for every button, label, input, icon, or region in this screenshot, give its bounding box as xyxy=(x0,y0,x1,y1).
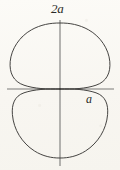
curve-plot-svg xyxy=(0,0,120,170)
label-two-a: 2a xyxy=(51,2,64,15)
figure-container: 2a a xyxy=(0,0,120,170)
label-a: a xyxy=(86,93,92,105)
